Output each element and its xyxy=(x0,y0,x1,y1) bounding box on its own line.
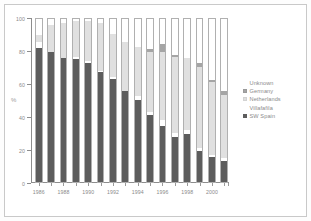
x-tick-mark-1987 xyxy=(51,183,52,186)
x-tick-label-2000: 2000 xyxy=(206,189,218,195)
x-tick-label-1986: 1986 xyxy=(33,189,45,195)
bar-segment-unknown xyxy=(121,18,129,42)
bar-segment-sw-spain xyxy=(47,52,55,183)
legend-swatch-icon xyxy=(243,89,247,93)
legend-label: Unknown xyxy=(250,80,274,86)
x-tick-label-1988: 1988 xyxy=(57,189,69,195)
bar-2000[interactable] xyxy=(208,18,216,183)
y-tick-40: 40 xyxy=(31,117,32,118)
bar-segment-sw-spain xyxy=(84,63,92,183)
bar-segment-sw-spain xyxy=(60,58,68,183)
x-tick-mark-end xyxy=(228,183,229,186)
x-tick-mark-1995 xyxy=(150,183,151,186)
legend-item-netherlands[interactable]: Netherlands xyxy=(243,95,303,103)
bar-segment-unknown xyxy=(134,18,142,47)
legend-item-germany[interactable]: Germany xyxy=(243,87,303,95)
bar-2001[interactable] xyxy=(220,18,228,183)
y-tick-mark xyxy=(27,18,31,19)
legend-label: SW Spain xyxy=(250,113,276,119)
x-tick-mark-1998 xyxy=(187,183,188,186)
bar-segment-netherlands xyxy=(208,82,216,155)
y-tick-mark xyxy=(27,117,31,118)
x-tick-mark-1999 xyxy=(200,183,201,186)
bar-segment-unknown xyxy=(159,18,167,44)
bar-1989[interactable] xyxy=(72,18,80,183)
y-tick-label: 60 xyxy=(19,82,25,88)
bar-segment-netherlands xyxy=(146,52,154,112)
bar-segment-unknown xyxy=(171,18,179,55)
bar-1987[interactable] xyxy=(47,18,55,183)
bar-segment-unknown xyxy=(109,18,117,34)
bar-1986[interactable] xyxy=(35,18,43,183)
x-tick-mark-1990 xyxy=(88,183,89,186)
y-tick-20: 20 xyxy=(31,150,32,151)
x-tick-label-1998: 1998 xyxy=(181,189,193,195)
bar-segment-netherlands xyxy=(134,47,142,97)
bar-segment-netherlands xyxy=(220,95,228,159)
bar-segment-netherlands xyxy=(196,67,204,149)
bar-segment-sw-spain xyxy=(159,126,167,183)
legend-label: Netherlands xyxy=(250,96,281,102)
x-tick-mark-1988 xyxy=(63,183,64,186)
legend-item-villafafila[interactable]: Villafafila xyxy=(243,104,303,112)
bar-segment-netherlands xyxy=(183,58,191,131)
figure-container: % 020406080100 1986198819901992199419961… xyxy=(0,0,311,221)
bar-segment-sw-spain xyxy=(109,79,117,183)
bar-segment-netherlands xyxy=(121,42,129,91)
plot-area: 020406080100 198619881990199219941996199… xyxy=(31,18,229,183)
bar-segment-unknown xyxy=(47,18,55,25)
bar-segment-sw-spain xyxy=(35,48,43,183)
x-tick-mark-1986 xyxy=(39,183,40,186)
bar-segment-unknown xyxy=(183,18,191,58)
x-tick-mark-1994 xyxy=(138,183,139,186)
bar-segment-sw-spain xyxy=(146,115,154,183)
x-tick-label-1994: 1994 xyxy=(132,189,144,195)
bar-segment-sw-spain xyxy=(208,157,216,183)
bar-segment-sw-spain xyxy=(196,151,204,183)
bar-1996[interactable] xyxy=(159,18,167,183)
legend-item-unknown[interactable]: Unknown xyxy=(243,79,303,87)
x-tick-mark-1997 xyxy=(175,183,176,186)
x-tick-mark-1989 xyxy=(76,183,77,186)
bar-segment-netherlands xyxy=(109,34,117,77)
legend-label: Germany xyxy=(250,88,274,94)
bar-segment-unknown xyxy=(220,18,228,91)
bar-1990[interactable] xyxy=(84,18,92,183)
y-tick-label: 0 xyxy=(22,181,25,187)
bar-1998[interactable] xyxy=(183,18,191,183)
y-axis-title: % xyxy=(11,97,16,103)
bar-segment-netherlands xyxy=(97,23,105,71)
x-tick-label-1996: 1996 xyxy=(156,189,168,195)
x-tick-mark-1991 xyxy=(101,183,102,186)
bar-1991[interactable] xyxy=(97,18,105,183)
bar-1997[interactable] xyxy=(171,18,179,183)
y-tick-mark xyxy=(27,183,31,184)
legend-swatch-icon xyxy=(243,97,247,101)
bar-1994[interactable] xyxy=(134,18,142,183)
bar-segment-unknown xyxy=(196,18,204,63)
bar-segment-netherlands xyxy=(35,35,43,42)
bar-segment-netherlands xyxy=(171,57,179,133)
bar-segment-netherlands xyxy=(47,25,55,52)
x-tick-mark-1992 xyxy=(113,183,114,186)
y-tick-mark xyxy=(27,84,31,85)
bar-segment-unknown xyxy=(146,18,154,49)
bar-segment-netherlands xyxy=(84,21,92,61)
x-tick-label-1992: 1992 xyxy=(107,189,119,195)
bar-segment-sw-spain xyxy=(183,134,191,183)
x-tick-mark-1996 xyxy=(162,183,163,186)
bar-1995[interactable] xyxy=(146,18,154,183)
legend-item-sw-spain[interactable]: SW Spain xyxy=(243,112,303,120)
bar-1993[interactable] xyxy=(121,18,129,183)
x-tick-label-1990: 1990 xyxy=(82,189,94,195)
bar-segment-sw-spain xyxy=(97,72,105,183)
bar-1992[interactable] xyxy=(109,18,117,183)
bar-1988[interactable] xyxy=(60,18,68,183)
legend-swatch-icon xyxy=(243,106,247,110)
bar-1999[interactable] xyxy=(196,18,204,183)
x-tick-mark-2001 xyxy=(224,183,225,186)
x-tick-mark-1993 xyxy=(125,183,126,186)
legend-swatch-icon xyxy=(243,81,247,85)
bar-segment-sw-spain xyxy=(220,161,228,183)
bar-segment-sw-spain xyxy=(72,59,80,183)
